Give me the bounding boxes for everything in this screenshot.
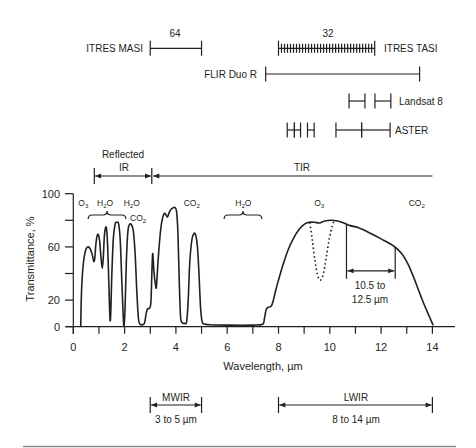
gas-label: CO2 bbox=[409, 198, 426, 209]
x-tick-label: 6 bbox=[224, 341, 230, 353]
gas-label: H2O bbox=[97, 198, 114, 209]
region-label-lwir: LWIR bbox=[344, 392, 368, 403]
absorption-labels: O3H2OH2OCO2CO2H2OO3CO2 bbox=[78, 198, 425, 224]
x-tick-label: 0 bbox=[70, 341, 76, 353]
x-axis-title: Wavelength, µm bbox=[223, 360, 302, 372]
tasi-channel-count: 32 bbox=[322, 28, 334, 39]
bandwidth-label-line1: 10.5 to bbox=[355, 280, 386, 291]
masi-channel-count: 64 bbox=[169, 28, 181, 39]
ozone-dip-dotted-curve bbox=[310, 221, 335, 281]
gas-label: CO2 bbox=[184, 198, 201, 209]
y-tick-label: 20 bbox=[48, 294, 60, 306]
x-tick-label: 4 bbox=[173, 341, 179, 353]
absorption-brace bbox=[88, 211, 126, 219]
region-label-ir: IR bbox=[119, 162, 129, 173]
instrument-label-landsat-8: Landsat 8 bbox=[399, 96, 443, 107]
spectral-regions-top: Reflected IR TIR bbox=[102, 149, 310, 173]
x-tick-label: 8 bbox=[275, 341, 281, 353]
y-tick-label: 100 bbox=[42, 188, 60, 200]
gas-label: O3 bbox=[78, 198, 89, 209]
x-tick-label: 10 bbox=[324, 341, 336, 353]
region-range-lwir: 8 to 14 µm bbox=[332, 414, 379, 425]
gas-label: O3 bbox=[314, 198, 325, 209]
y-tick-label: 0 bbox=[54, 321, 60, 333]
instrument-label-itres-masi: ITRES MASI bbox=[86, 43, 143, 54]
gas-label: CO2 bbox=[130, 213, 147, 224]
region-range-mwir: 3 to 5 µm bbox=[155, 414, 197, 425]
absorption-brace bbox=[224, 211, 262, 219]
x-tick-label: 2 bbox=[122, 341, 128, 353]
bandwidth-annotation bbox=[346, 224, 395, 279]
x-tick-label: 14 bbox=[426, 341, 438, 353]
y-tick-label: 60 bbox=[48, 241, 60, 253]
y-axis-title: Transmittance, % bbox=[24, 216, 36, 301]
instrument-coverage: 64 ITRES MASI 32 ITRES TASI FLIR Duo R L… bbox=[86, 28, 443, 138]
instrument-label-flir-duo-r: FLIR Duo R bbox=[204, 69, 257, 80]
transmittance-curve bbox=[81, 207, 433, 326]
instrument-label-aster: ASTER bbox=[395, 125, 428, 136]
region-label-tir: TIR bbox=[294, 162, 310, 173]
gas-label: H2O bbox=[124, 198, 141, 209]
region-label-mwir: MWIR bbox=[162, 392, 190, 403]
plot-area: 0206010002468101214O3H2OH2OCO2CO2H2OO3CO… bbox=[42, 188, 455, 353]
spectral-regions-bottom: MWIR 3 to 5 µm LWIR 8 to 14 µm bbox=[155, 392, 380, 425]
transmittance-figure: 64 ITRES MASI 32 ITRES TASI FLIR Duo R L… bbox=[0, 0, 476, 448]
region-label-reflected: Reflected bbox=[102, 149, 144, 160]
bandwidth-label-line2: 12.5 µm bbox=[352, 294, 388, 305]
instrument-label-itres-tasi: ITRES TASI bbox=[384, 43, 438, 54]
gas-label: H2O bbox=[235, 198, 252, 209]
x-tick-label: 12 bbox=[375, 341, 387, 353]
